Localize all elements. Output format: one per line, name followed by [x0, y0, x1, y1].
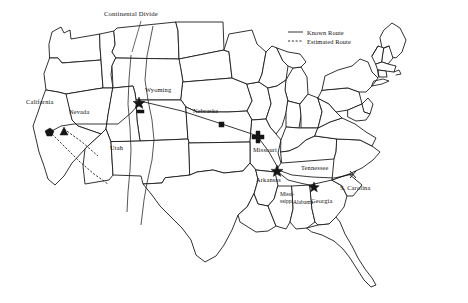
label-california: California: [26, 98, 53, 105]
cape-cod: [394, 70, 401, 75]
label-utah: Utah: [110, 144, 124, 151]
label-nevada: Nevada: [69, 108, 89, 115]
state-oregon: [44, 58, 103, 94]
legend-label-known-route: Known Route: [307, 29, 344, 36]
map-canvas: Continental Divide: [0, 0, 468, 303]
route-arkansas-to-georgia: [278, 172, 314, 186]
map-state-boundaries: [33, 22, 406, 287]
label-south-carolina: S. Carolina: [340, 184, 370, 191]
label-wyoming: Wyoming: [145, 86, 172, 93]
us-route-map-figure: Continental Divide: [0, 0, 468, 303]
state-oklahoma: [189, 142, 250, 175]
label-arkansas: Arkansas: [256, 176, 281, 183]
state-indiana: [286, 101, 301, 128]
state-new-york: [322, 59, 378, 92]
state-connecticut: [378, 70, 387, 77]
label-mississippi-line1: Missi-: [280, 191, 294, 197]
label-missouri: Missouri: [253, 146, 277, 153]
state-florida: [307, 217, 376, 287]
continental-divide-label: Continental Divide: [104, 10, 158, 17]
map-legend: Known Route Estimated Route: [288, 29, 351, 45]
legend-label-estimated-route: Estimated Route: [307, 38, 351, 45]
marker-nebraska-square: [219, 122, 224, 127]
marker-wyoming-square: [137, 110, 144, 113]
route-arkansas-to-tennessee: [278, 170, 334, 178]
label-georgia: Georgia: [311, 197, 333, 204]
label-nebraska: Nebraska: [193, 107, 218, 114]
label-tennessee: Tennessee: [301, 164, 329, 171]
state-montana: [112, 22, 179, 59]
label-mississippi-line2: ssippi: [280, 198, 294, 204]
